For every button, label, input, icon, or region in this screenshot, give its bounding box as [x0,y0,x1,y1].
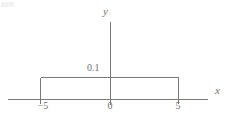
x-tick-label-zero: 0 [104,101,116,111]
x-axis-label: x [215,85,220,96]
y-axis-label: y [103,6,108,17]
uniform-distribution-figure: y x −5 0 5 0.1 [0,0,239,122]
pdf-height-label: 0.1 [87,63,100,73]
x-tick-label-five: 5 [172,101,184,111]
x-tick-label-neg5: −5 [33,101,53,111]
